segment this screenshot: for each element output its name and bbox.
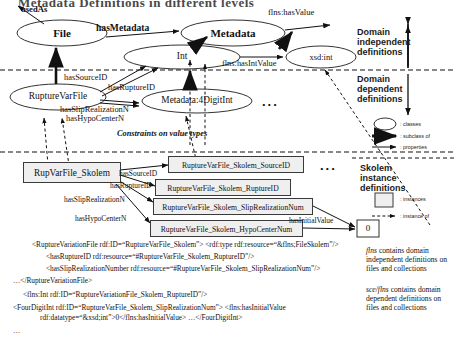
legend-line: independent — [357, 37, 411, 47]
skolem-instance-box-sourceid[interactable]: RuptureVarFile_Skolem_SourceID — [168, 156, 304, 173]
skolem-instance-label: RuptureVarFile_Skolem_SlipRealizationNum — [154, 199, 312, 212]
note-flns-text: contains domain independent definitions … — [366, 246, 447, 273]
edge-label-hashypocentern-skolem: hasHypoCenterN — [75, 215, 126, 222]
legend-line: definitions — [360, 183, 406, 193]
legend-line: Domain — [357, 74, 403, 84]
edge-label-flns-hasvalue: flns:hasValue — [268, 8, 314, 17]
note-flns: flns contains domain independent definit… — [366, 246, 452, 274]
legend-line: Skolem — [360, 163, 406, 173]
edge-label-flns-hasintvalue: flns:hasIntValue — [222, 60, 276, 68]
diagram-figure: Metadata Definitions in different levels — [0, 0, 454, 340]
edge-label-hassliprealizationn-skolem: hasSlipRealizationN — [64, 196, 125, 203]
code-line: <FourDigitInt rdf:ID=“RuptureVarFile_Sko… — [13, 303, 286, 313]
legend-skolem-instance: Skolem instance definitions — [360, 163, 406, 193]
code-line: … — [13, 326, 20, 336]
code-line: <hasRuptureID rdf:resource=“#RuptureVarF… — [46, 252, 254, 262]
skolem-value-node: 0 — [357, 224, 379, 233]
edge-label-hashypocentern-upper: hasHypoCenterN — [66, 115, 124, 123]
legend-line: definitions — [357, 94, 403, 104]
code-line: <RuptureVariationFile rdf:ID=“RuptureVar… — [32, 240, 339, 250]
legend-domain-independent: Domain independent definitions — [357, 27, 411, 57]
constraints-note: Constraints on value types — [117, 129, 207, 138]
skolem-instance-box-sliprealizationnum[interactable]: RuptureVarFile_Skolem_SlipRealizationNum — [153, 198, 313, 215]
ellipsis-skolem: ... — [320, 158, 337, 173]
code-line: …</RuptureVariationFile> — [13, 276, 92, 286]
skolem-instance-box-ruptureid[interactable]: RuptureVarFile_Skolem_RuptureID — [155, 179, 291, 196]
skolem-instance-box-hypocenternum[interactable]: RuptureVarFile_Skolem_HypoCenterNum — [150, 220, 303, 237]
edge-label-hasmetadata: hasMetadata — [96, 23, 149, 33]
edge-label-hasinitialvalue-skolem: hasInitialValue — [289, 217, 333, 224]
code-line: <flns:Int rdf:ID=“RuptureVariationFile_S… — [23, 290, 207, 300]
note-sceflns-prefix: sce/flns — [366, 285, 389, 294]
code-line: rdf:datatype=“&xsd;int”>0</flns:hasIniti… — [40, 313, 242, 323]
legend-item-classes: : classes — [400, 121, 421, 127]
edge-label-hassourceid-upper: hasSourceID — [64, 74, 107, 82]
note-flns-prefix: flns — [366, 246, 377, 255]
class-node-rupture-var-file: RuptureVarFile — [10, 92, 106, 102]
edge-label-hasruptureid-upper: hasRuptureID — [108, 84, 155, 92]
skolem-subject-label: RupVarFile_Skolem — [24, 163, 120, 178]
legend-item-instance-of: : instance of — [400, 213, 429, 219]
legend-line: dependent — [357, 84, 403, 94]
skolem-instance-label: RuptureVarFile_Skolem_HypoCenterNum — [151, 221, 302, 234]
legend-line: Domain — [357, 27, 411, 37]
code-line: <hasSlipRealizationNumber rdf:resource=“… — [46, 264, 320, 274]
ellipsis-upper: ... — [262, 94, 279, 109]
edge-label-usedas: usedAs — [21, 5, 47, 14]
class-node-metadata: Metadata — [181, 28, 285, 39]
class-node-metadata-4digitint: Metadata:4DigitInt — [142, 96, 252, 105]
edge-label-hasruptureid-skolem: hasRuptureID — [110, 182, 151, 189]
note-sceflns: sce/flns contains domain dependent defin… — [366, 285, 452, 313]
legend-item-properties: : properties — [400, 144, 427, 150]
legend-domain-dependent: Domain dependent definitions — [357, 74, 403, 104]
legend-item-instances: : instances — [400, 196, 426, 202]
skolem-instance-label: RuptureVarFile_Skolem_SourceID — [169, 157, 303, 170]
legend-item-subclass-of: : subclass of — [400, 133, 430, 139]
legend-line: definitions — [357, 47, 411, 57]
class-node-file: File — [17, 28, 107, 39]
edge-label-hassourceid-skolem: hasSourceID — [119, 170, 157, 177]
skolem-instance-label: RuptureVarFile_Skolem_RuptureID — [156, 180, 290, 193]
class-node-xsd-int: xsd:int — [286, 53, 356, 62]
legend-line: instance — [360, 173, 406, 183]
skolem-subject-box[interactable]: RupVarFile_Skolem — [23, 162, 121, 183]
